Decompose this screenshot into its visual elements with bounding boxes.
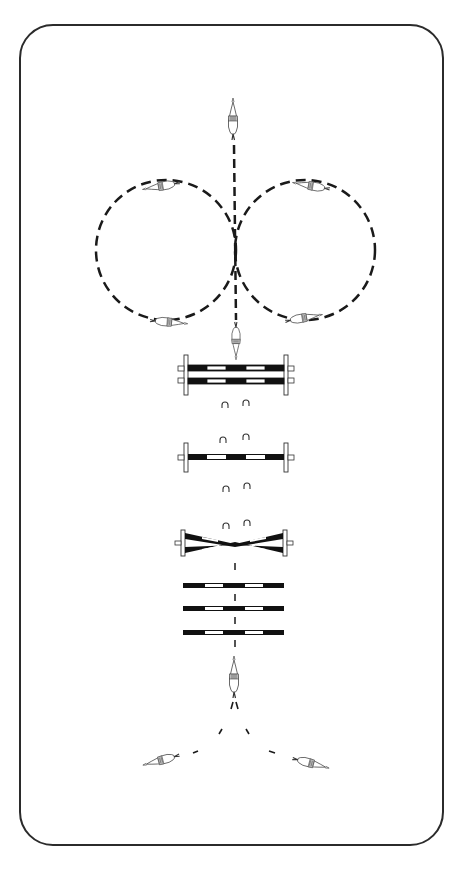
horse-rider-icon: [232, 322, 240, 360]
left-circle-track: [96, 180, 236, 320]
ground-pole: [183, 583, 284, 588]
horse-rider-icon: [142, 751, 181, 769]
hoofprints-icon: [223, 483, 250, 529]
ground-pole: [183, 606, 284, 611]
ground-pole: [183, 630, 284, 635]
course-diagram: [0, 0, 469, 871]
horse-rider-icon: [292, 754, 331, 772]
horse-rider-icon: [229, 98, 238, 140]
split-track: [193, 702, 275, 753]
jump-crossrail: [175, 530, 293, 556]
right-circle-track: [235, 180, 375, 320]
jump-vertical-double: [178, 355, 294, 395]
horse-rider-icon: [230, 656, 239, 698]
hoofprints-icon: [220, 400, 249, 443]
jump-vertical-single: [178, 443, 294, 472]
